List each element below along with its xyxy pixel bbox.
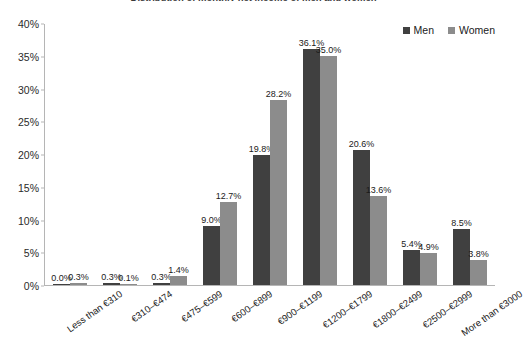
bar-women — [320, 56, 337, 285]
bar-men — [303, 49, 320, 285]
bar-wrapper: 12.7% — [220, 24, 237, 285]
bar-women — [420, 253, 437, 285]
bar-wrapper: 4.9% — [420, 24, 437, 285]
bar-men — [353, 150, 370, 285]
bar-men — [153, 283, 170, 285]
x-axis-labels: Less than €310€310–€474€475–€599€600–€89… — [45, 288, 495, 357]
y-axis-tick-mark — [41, 24, 44, 25]
y-axis-tick-mark — [41, 187, 44, 188]
y-axis-tick-label: 40% — [18, 18, 39, 30]
bar-value-label: 0.1% — [118, 273, 139, 283]
y-axis-tick-label: 25% — [18, 116, 39, 128]
chart-title: Distribution of monthly net income of me… — [0, 0, 507, 1]
bar-value-label: 8.5% — [451, 218, 472, 228]
bar-group: 9.0%12.7% — [195, 24, 245, 285]
plot-area: 0%5%10%15%20%25%30%35%40% 0.0%0.3%0.3%0.… — [44, 24, 495, 286]
bar-value-label: 28.2% — [266, 89, 292, 99]
bar-value-label: 35.0% — [316, 45, 342, 55]
bar-wrapper: 35.0% — [320, 24, 337, 285]
bar-groups: 0.0%0.3%0.3%0.1%0.3%1.4%9.0%12.7%19.8%28… — [45, 24, 495, 285]
bar-wrapper: 28.2% — [270, 24, 287, 285]
bar-value-label: 9.0% — [201, 215, 222, 225]
bar-group: 8.5%3.8% — [445, 24, 495, 285]
bar-women — [470, 260, 487, 285]
bar-group: 19.8%28.2% — [245, 24, 295, 285]
bar-wrapper: 0.0% — [53, 24, 70, 285]
y-axis-tick-label: 20% — [18, 149, 39, 161]
bar-value-label: 0.3% — [68, 272, 89, 282]
bar-wrapper: 0.3% — [153, 24, 170, 285]
y-axis-tick-label: 35% — [18, 51, 39, 63]
bar-value-label: 13.6% — [366, 185, 392, 195]
bar-wrapper: 36.1% — [303, 24, 320, 285]
bar-wrapper: 8.5% — [453, 24, 470, 285]
bar-value-label: 1.4% — [168, 265, 189, 275]
y-axis-tick-mark — [41, 89, 44, 90]
bar-value-label: 4.9% — [418, 242, 439, 252]
bar-value-label: 12.7% — [216, 191, 242, 201]
bar-wrapper: 20.6% — [353, 24, 370, 285]
bar-group: 36.1%35.0% — [295, 24, 345, 285]
bar-men — [53, 284, 70, 285]
bar-group: 5.4%4.9% — [395, 24, 445, 285]
bar-women — [270, 100, 287, 285]
bar-group: 0.3%1.4% — [145, 24, 195, 285]
bar-group: 0.3%0.1% — [95, 24, 145, 285]
bar-wrapper: 3.8% — [470, 24, 487, 285]
bar-men — [253, 155, 270, 285]
bar-women — [220, 202, 237, 285]
bar-women — [120, 284, 137, 285]
y-axis-tick-label: 30% — [18, 84, 39, 96]
bar-women — [370, 196, 387, 285]
y-axis-tick-mark — [41, 286, 44, 287]
y-axis-tick-mark — [41, 253, 44, 254]
bar-wrapper: 1.4% — [170, 24, 187, 285]
y-axis-tick-label: 10% — [18, 215, 39, 227]
bar-group: 0.0%0.3% — [45, 24, 95, 285]
y-axis-tick-mark — [41, 122, 44, 123]
bar-value-label: 3.8% — [468, 249, 489, 259]
y-axis-tick-label: 0% — [24, 280, 39, 292]
y-axis-tick-mark — [41, 56, 44, 57]
bar-men — [403, 250, 420, 285]
bar-wrapper: 19.8% — [253, 24, 270, 285]
bar-wrapper: 13.6% — [370, 24, 387, 285]
x-axis-line — [44, 285, 495, 286]
bar-wrapper: 0.3% — [70, 24, 87, 285]
y-axis-tick-mark — [41, 220, 44, 221]
bar-wrapper: 0.3% — [103, 24, 120, 285]
bar-wrapper: 0.1% — [120, 24, 137, 285]
y-axis-tick-label: 5% — [24, 247, 39, 259]
y-axis-tick-label: 15% — [18, 182, 39, 194]
bar-women — [70, 283, 87, 285]
bar-women — [170, 276, 187, 285]
bar-group: 20.6%13.6% — [345, 24, 395, 285]
bar-men — [203, 226, 220, 285]
bar-wrapper: 9.0% — [203, 24, 220, 285]
y-axis-tick-mark — [41, 155, 44, 156]
